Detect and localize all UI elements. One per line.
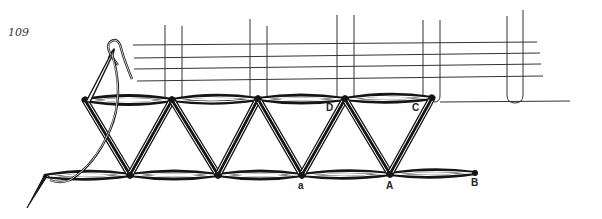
label-A: A: [386, 180, 393, 191]
label-B: B: [471, 177, 478, 188]
lower-needle-icon: [27, 175, 50, 208]
diagonal-stitches: [83, 95, 436, 178]
label-C: C: [412, 102, 419, 113]
bottom-row-stitches: [44, 170, 478, 179]
label-D: D: [326, 102, 333, 113]
fabric-grid: [133, 10, 570, 103]
label-a: a: [298, 180, 304, 191]
needlework-diagram: 109: [0, 0, 602, 219]
figure-number: 109: [8, 26, 29, 39]
